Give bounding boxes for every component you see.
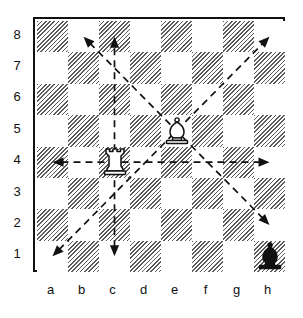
rank-label-6: 6 [6,89,28,104]
board-square-b1[interactable] [68,241,99,272]
board-squares [35,19,283,270]
board-square-d4[interactable] [130,147,161,178]
board-square-f7[interactable] [192,52,223,83]
board-square-b7[interactable] [68,52,99,83]
board-square-f1[interactable] [192,241,223,272]
board-square-h8[interactable] [254,21,285,52]
rank-label-4: 4 [6,152,28,167]
board-square-c1[interactable] [99,241,130,272]
board-square-f2[interactable] [192,209,223,240]
file-label-h: h [256,282,280,297]
file-label-d: d [132,282,156,297]
board-square-c8[interactable] [99,21,130,52]
board-square-c5[interactable] [99,115,130,146]
white-rook-c4[interactable] [99,147,130,178]
board-square-g2[interactable] [223,209,254,240]
board-square-b4[interactable] [68,147,99,178]
board-square-g3[interactable] [223,178,254,209]
rank-label-7: 7 [6,58,28,73]
board-square-f6[interactable] [192,84,223,115]
file-label-a: a [39,282,63,297]
board-square-g4[interactable] [223,147,254,178]
black-bishop-h1[interactable] [254,241,285,272]
board-square-h3[interactable] [254,178,285,209]
board-square-d2[interactable] [130,209,161,240]
board-square-g6[interactable] [223,84,254,115]
board-square-a5[interactable] [37,115,68,146]
board-square-g7[interactable] [223,52,254,83]
board-square-g1[interactable] [223,241,254,272]
board-square-c3[interactable] [99,178,130,209]
chess-board [33,17,285,272]
board-square-a7[interactable] [37,52,68,83]
board-square-c7[interactable] [99,52,130,83]
board-square-d5[interactable] [130,115,161,146]
board-square-c2[interactable] [99,209,130,240]
board-square-a6[interactable] [37,84,68,115]
board-square-e1[interactable] [161,241,192,272]
board-square-b2[interactable] [68,209,99,240]
board-square-h6[interactable] [254,84,285,115]
board-square-b5[interactable] [68,115,99,146]
rank-label-5: 5 [6,121,28,136]
board-square-f8[interactable] [192,21,223,52]
file-label-e: e [163,282,187,297]
board-square-e7[interactable] [161,52,192,83]
white-bishop-e5[interactable] [161,115,192,146]
board-square-e2[interactable] [161,209,192,240]
board-square-g5[interactable] [223,115,254,146]
board-square-g8[interactable] [223,21,254,52]
board-square-f4[interactable] [192,147,223,178]
board-square-b3[interactable] [68,178,99,209]
board-square-a1[interactable] [37,241,68,272]
board-square-a3[interactable] [37,178,68,209]
board-square-h7[interactable] [254,52,285,83]
board-square-e3[interactable] [161,178,192,209]
board-square-e6[interactable] [161,84,192,115]
board-square-d6[interactable] [130,84,161,115]
board-square-f5[interactable] [192,115,223,146]
file-label-g: g [225,282,249,297]
board-square-f3[interactable] [192,178,223,209]
board-square-b8[interactable] [68,21,99,52]
board-square-e4[interactable] [161,147,192,178]
board-square-c6[interactable] [99,84,130,115]
rank-label-2: 2 [6,215,28,230]
file-label-b: b [70,282,94,297]
board-square-d3[interactable] [130,178,161,209]
board-square-d7[interactable] [130,52,161,83]
file-label-f: f [194,282,218,297]
rank-label-1: 1 [6,246,28,261]
board-square-h4[interactable] [254,147,285,178]
board-square-a2[interactable] [37,209,68,240]
board-square-a8[interactable] [37,21,68,52]
board-square-d1[interactable] [130,241,161,272]
rank-label-8: 8 [6,27,28,42]
rank-label-3: 3 [6,184,28,199]
board-square-b6[interactable] [68,84,99,115]
board-square-h2[interactable] [254,209,285,240]
board-square-d8[interactable] [130,21,161,52]
file-label-c: c [101,282,125,297]
chess-move-diagram: 87654321 abcdefgh [0,0,303,318]
board-square-h5[interactable] [254,115,285,146]
board-square-e8[interactable] [161,21,192,52]
board-square-a4[interactable] [37,147,68,178]
